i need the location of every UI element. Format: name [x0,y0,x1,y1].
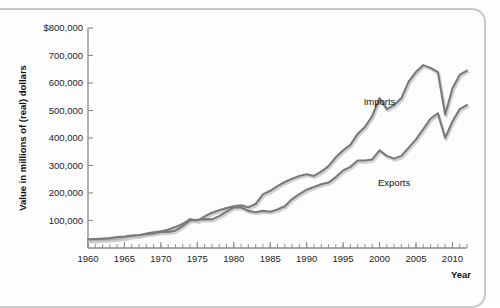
x-tick-label: 1970 [150,253,171,264]
y-tick-label: 300,000 [49,160,83,171]
x-axis-tick-labels: 1960196519701975198019851990199520002005… [77,253,463,264]
x-tick-label: 1975 [187,253,208,264]
y-tick-label: 500,000 [49,105,83,116]
chart-series-group [88,65,468,242]
x-tick-label: 1985 [260,253,281,264]
y-tick-label: 100,000 [49,215,83,226]
x-tick-label: 2005 [405,253,426,264]
chart-axes [88,28,467,248]
x-tick-label: 1980 [223,253,244,264]
series-label-exports: Exports [378,177,410,188]
x-axis-title: Year [451,269,471,280]
series-line-exports [88,105,467,239]
y-axis-title: Value in millions of (real) dollars [17,65,28,211]
y-tick-label: 700,000 [49,50,83,61]
x-tick-label: 1965 [114,253,135,264]
y-tick-label: 600,000 [49,77,83,88]
x-tick-label: 2010 [442,253,463,264]
series-label-imports: Imports [364,96,396,107]
y-tick-label: 400,000 [49,132,83,143]
y-tick-label: $800,000 [43,22,83,33]
series-line-shadow [89,107,468,241]
x-tick-label: 1990 [296,253,317,264]
x-tick-label: 1960 [77,253,98,264]
x-tick-label: 2000 [369,253,390,264]
series-line-imports [88,65,467,240]
y-axis-tick-labels: 100,000200,000300,000400,000500,000600,0… [43,22,83,226]
series-line-shadow [89,67,468,242]
x-tick-label: 1995 [333,253,354,264]
y-tick-label: 200,000 [49,187,83,198]
